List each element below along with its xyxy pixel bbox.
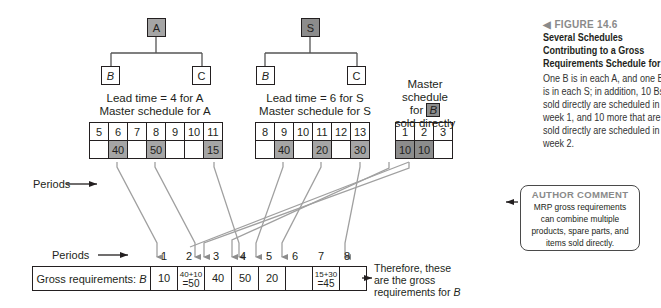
period-number: 6 — [292, 250, 298, 262]
gross-cell: 20 — [259, 267, 286, 290]
figure-description: One B is in each A, and one B is in each… — [543, 72, 644, 150]
schedule-a-caption: Lead time = 4 for A Master schedule for … — [80, 92, 230, 118]
gross-cell: 40 — [205, 267, 232, 290]
author-comment-body: MRP gross requirements can combine multi… — [528, 201, 632, 249]
schedule-s-caption: Lead time = 6 for S Master schedule for … — [240, 92, 390, 118]
author-comment-box: AUTHOR COMMENT MRP gross requirements ca… — [520, 185, 640, 251]
figure-sidebar: ◀ FIGURE 14.6 Several Schedules Contribu… — [543, 19, 661, 150]
periods-label-bottom: Periods — [52, 249, 89, 261]
figure-number: ◀ FIGURE 14.6 — [543, 19, 661, 30]
left-triangle-icon: ◀ — [543, 19, 554, 30]
gross-cell: 10 — [151, 267, 178, 290]
author-comment-heading: AUTHOR COMMENT — [521, 189, 639, 201]
gross-cell: 50 — [232, 267, 259, 290]
item-b-badge: B — [426, 103, 440, 117]
period-number: 8 — [344, 250, 350, 262]
child-node-b: B — [256, 66, 275, 85]
period-number: 1 — [161, 250, 167, 262]
period-number: 7 — [318, 250, 324, 262]
period-number: 4 — [240, 250, 246, 262]
child-node-c: C — [347, 66, 366, 85]
master-schedule-a: 567891011 405015 — [89, 122, 223, 159]
gross-cell — [340, 267, 366, 290]
periods-label-top: Periods — [33, 178, 70, 190]
therefore-note: Therefore, these are the gross requireme… — [374, 262, 460, 298]
child-node-b: B — [101, 66, 120, 85]
gross-cell — [286, 267, 313, 290]
parent-node-a: A — [147, 18, 166, 37]
parent-node-s: S — [301, 18, 320, 37]
period-number: 2 — [186, 250, 192, 262]
period-number: 3 — [213, 250, 219, 262]
gross-requirements-label: Gross requirements:B — [33, 267, 151, 290]
master-schedule-direct: 123 1010 — [395, 122, 453, 159]
master-schedule-s: 8910111213 402030 — [255, 122, 370, 159]
figure-title: Several Schedules Contributing to a Gros… — [543, 31, 644, 70]
gross-cell: 40+10=50 — [178, 267, 205, 290]
gross-cell: 15+30=45 — [313, 267, 340, 290]
gross-requirements-row: Gross requirements:B 10 40+10=50 40 50 2… — [32, 266, 367, 291]
period-number: 5 — [266, 250, 272, 262]
child-node-c: C — [192, 66, 211, 85]
